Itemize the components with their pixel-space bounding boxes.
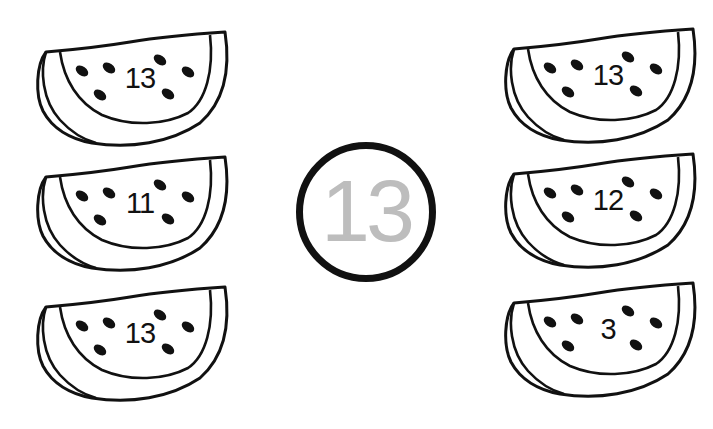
slice-number: 13 <box>112 64 168 93</box>
slice-number: 3 <box>580 315 636 344</box>
slice-number: 12 <box>580 186 636 215</box>
watermelon-slice-left-3[interactable]: 13 <box>30 280 240 405</box>
target-number-circle: 13 <box>296 142 436 282</box>
watermelon-slice-right-1[interactable]: 13 <box>498 22 708 147</box>
watermelon-slice-left-2[interactable]: 11 <box>30 150 240 275</box>
watermelon-slice-right-3[interactable]: 3 <box>498 276 708 401</box>
watermelon-slice-left-1[interactable]: 13 <box>30 25 240 150</box>
watermelon-slice-right-2[interactable]: 12 <box>498 147 708 272</box>
slice-number: 11 <box>112 189 168 218</box>
target-number: 13 <box>321 167 411 255</box>
slice-number: 13 <box>580 61 636 90</box>
slice-number: 13 <box>112 319 168 348</box>
worksheet: 13 11 13 13 13 12 3 <box>0 0 713 429</box>
